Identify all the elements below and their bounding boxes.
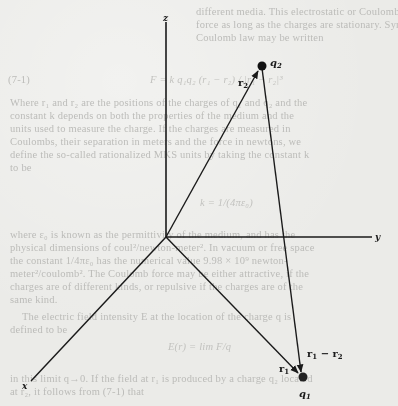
- vector-r2-subscript: 2: [243, 81, 248, 90]
- vector-r2: [166, 71, 258, 237]
- r2-subscript: 2: [338, 352, 343, 361]
- charge-q1-label: q1: [299, 389, 311, 402]
- vector-r2-label: r2: [238, 78, 248, 91]
- charge-q2-subscript: 2: [277, 61, 282, 70]
- x-axis-label: x: [22, 381, 27, 391]
- x-axis: [31, 237, 166, 381]
- vector-r1: [166, 237, 298, 373]
- coordinate-diagram: [0, 0, 398, 406]
- charge-q2-symbol: q: [270, 57, 277, 68]
- charge-q1-symbol: q: [299, 388, 306, 399]
- vector-r1-minus-r2-label: r1 − r2: [307, 349, 343, 362]
- y-axis-label: y: [375, 232, 380, 242]
- vector-r1-minus-r2: [262, 68, 301, 372]
- charge-q2-dot: [258, 62, 267, 71]
- charge-q1-subscript: 1: [306, 392, 311, 401]
- scanned-page: different media. This electrostatic or C…: [0, 0, 398, 406]
- charge-q1-dot: [299, 373, 308, 382]
- z-axis-label: z: [163, 13, 168, 23]
- vector-r1-label: r1: [279, 364, 289, 377]
- charge-q2-label: q2: [270, 58, 282, 71]
- minus-sign: −: [317, 348, 332, 359]
- vector-r1-subscript: 1: [284, 367, 289, 376]
